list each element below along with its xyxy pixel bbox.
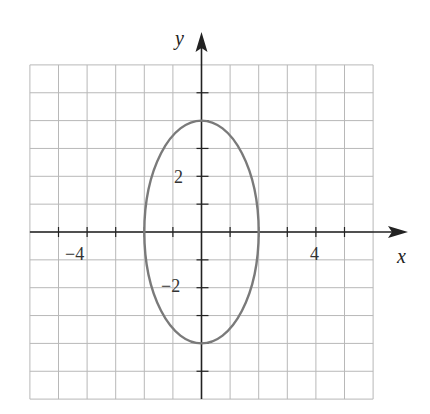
x-axis-label: x [396, 245, 406, 267]
x-tick-label-4: 4 [310, 244, 319, 264]
y-tick-label-2: 2 [174, 167, 183, 187]
y-tick-label-neg2: −2 [161, 276, 180, 296]
y-axis-label: y [173, 27, 184, 50]
x-tick-label-neg4: −4 [65, 244, 84, 264]
chart-canvas: −4 4 2 −2 x y [0, 0, 430, 414]
